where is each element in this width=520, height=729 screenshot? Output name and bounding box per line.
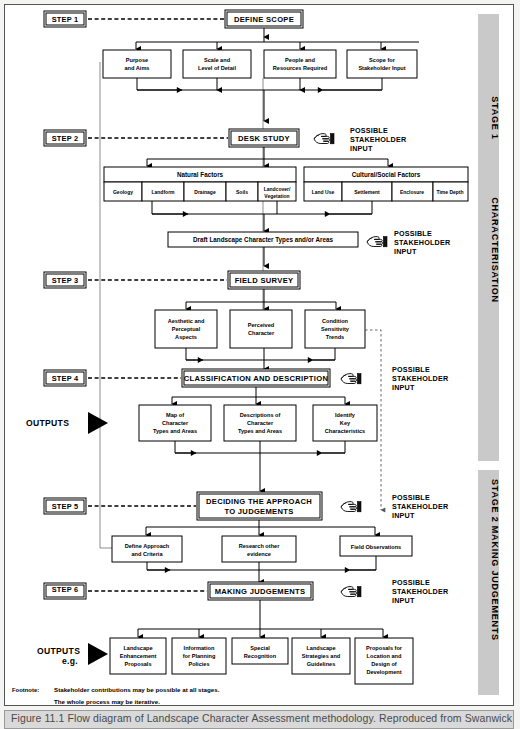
- step-6-label: STEP 6: [52, 585, 79, 594]
- output-box-special-l1: Special: [250, 645, 270, 651]
- step1-box-scale-l2: Level of Detail: [198, 65, 236, 71]
- stakeholder-1-line3: INPUT: [350, 144, 373, 153]
- outputs-marker-2: OUTPUTS e.g.: [37, 643, 108, 666]
- output-box-information-l1: Information: [184, 645, 215, 651]
- stakeholder-callout-2: POSSIBLE STAKEHOLDER INPUT: [367, 229, 451, 256]
- cultural-cell-timedepth-label: Time Depth: [436, 189, 463, 195]
- stage-band-group: STAGE 1 CHARACTERISATION STAGE 2 MAKING …: [478, 14, 500, 695]
- flow-diagram: STAGE 1 CHARACTERISATION STAGE 2 MAKING …: [0, 0, 520, 712]
- output-box-special[interactable]: [232, 638, 288, 664]
- step4-box-descriptions-l1: Descriptions of: [240, 412, 281, 418]
- step-2-group: STEP 2 DESK STUDY POSSIBLE STAKEHOLDER I…: [44, 126, 468, 266]
- natural-cell-landcover-label-l2: Vegetation: [264, 193, 289, 199]
- step1-box-purpose-l2: and Aims: [125, 65, 150, 71]
- stakeholder-1-line2: STAKEHOLDER: [350, 135, 407, 144]
- stakeholder-callout-3: POSSIBLE STAKEHOLDER INPUT: [341, 365, 449, 392]
- step1-box-scope[interactable]: [347, 50, 417, 78]
- natural-cell-geology-label: Geology: [113, 189, 133, 195]
- output-box-strategies-l2: Strategies and: [302, 653, 341, 659]
- stakeholder-callout-4: POSSIBLE STAKEHOLDER INPUT: [341, 493, 449, 520]
- stakeholder-5-line2: STAKEHOLDER: [392, 587, 449, 596]
- cultural-factors-header: Cultural/Social Factors: [352, 171, 421, 178]
- deciding-approach-title-l2: TO JUDGEMENTS: [224, 507, 293, 516]
- step5-box-research[interactable]: [222, 536, 296, 562]
- step4-box-identify-l1: Identify: [335, 412, 356, 418]
- step5-box-research-l2: evidence: [247, 551, 271, 557]
- step3-box-condition-l1: Condition: [322, 318, 349, 324]
- pointing-hand-icon: [367, 237, 387, 247]
- outputs-label-2: OUTPUTS: [37, 646, 80, 656]
- desk-study-title: DESK STUDY: [238, 134, 290, 143]
- stakeholder-3-line1: POSSIBLE: [392, 365, 430, 374]
- output-box-proposals-l3: Design of: [371, 661, 397, 667]
- step1-box-scale-l1: Scale and: [204, 57, 231, 63]
- step1-box-people[interactable]: [264, 50, 336, 78]
- outputs-marker-1: OUTPUTS: [26, 412, 108, 434]
- output-box-proposals-l1: Proposals for: [366, 645, 403, 651]
- step4-box-descriptions-l3: Types and Areas: [238, 428, 282, 434]
- step4-collect-left: [175, 441, 196, 453]
- step4-box-identify-l3: Characteristics: [325, 428, 365, 434]
- natural-cell-drainage-label: Drainage: [194, 189, 216, 195]
- outputs-label-1: OUTPUTS: [26, 418, 69, 428]
- figure-caption: Figure 11.1 Flow diagram of Landscape Ch…: [11, 712, 514, 724]
- step3-box-perceived[interactable]: [230, 310, 292, 348]
- cultural-cell-landuse-label: Land Use: [312, 189, 335, 195]
- deciding-approach-title-l1: DECIDING THE APPROACH: [206, 497, 312, 506]
- figure-page: STAGE 1 CHARACTERISATION STAGE 2 MAKING …: [0, 0, 520, 729]
- natural-cell-landform-label: Landform: [151, 189, 175, 195]
- output-box-information-l2: for Planning: [183, 653, 216, 659]
- step5-box-define[interactable]: [112, 536, 182, 562]
- step4-box-identify-l2: Key: [340, 420, 351, 426]
- footnote-line-1: Stakeholder contributions may be possibl…: [54, 686, 220, 693]
- footnote-line-2: The whole process may be iterative.: [54, 698, 160, 705]
- output-box-information-l3: Policies: [188, 661, 209, 667]
- stakeholder-2-line1: POSSIBLE: [394, 229, 432, 238]
- step3-collect-right: [313, 348, 335, 360]
- stakeholder-4-line1: POSSIBLE: [392, 493, 430, 502]
- pointing-hand-icon: [341, 502, 361, 512]
- stakeholder-2-line3: INPUT: [394, 247, 417, 256]
- making-judgements-title: MAKING JUDGEMENTS: [215, 587, 306, 596]
- step5-collect-right: [350, 556, 376, 570]
- natural-cell-landcover-label-l1: Landcover/: [264, 186, 291, 192]
- step-4-label: STEP 4: [52, 374, 79, 383]
- stakeholder-1-line1: POSSIBLE: [350, 126, 388, 135]
- stage-1-label-b: CHARACTERISATION: [490, 197, 500, 303]
- figure-caption-bar: Figure 11.1 Flow diagram of Landscape Ch…: [4, 710, 514, 729]
- output-box-special-l2: Recognition: [244, 653, 277, 659]
- step1-box-scope-l1: Scope for: [369, 57, 396, 63]
- stakeholder-4-line2: STAKEHOLDER: [392, 502, 449, 511]
- step3-box-aesthetic-l1: Aesthetic and: [168, 318, 205, 324]
- natural-cell-soils-label: Soils: [236, 189, 248, 195]
- step1-box-scope-l2: Stakeholder Input: [358, 65, 405, 71]
- step-2-label: STEP 2: [52, 134, 79, 143]
- stakeholder-2-line2: STAKEHOLDER: [394, 238, 451, 247]
- step4-box-map-l1: Map of: [166, 412, 184, 418]
- draft-landscape-label: Draft Landscape Character Types and/or A…: [193, 236, 333, 244]
- classification-title: CLASSIFICATION AND DESCRIPTION: [184, 374, 328, 383]
- step-1-label: STEP 1: [52, 15, 79, 24]
- step1-collect-left: [137, 78, 182, 90]
- stage-1-label-a: STAGE 1: [490, 96, 500, 139]
- stakeholder-callout-5: POSSIBLE STAKEHOLDER INPUT: [341, 578, 449, 605]
- output-box-strategies-l3: Guidelines: [307, 661, 336, 667]
- pointing-hand-icon: [341, 374, 361, 384]
- step5-box-define-l2: and Criteria: [131, 551, 163, 557]
- step5-box-field-obs-l1: Field Observations: [351, 544, 401, 550]
- field-survey-title: FIELD SURVEY: [235, 276, 294, 285]
- step1-box-scale[interactable]: [183, 50, 251, 78]
- factors-collect-left: [152, 201, 188, 214]
- stakeholder-5-line3: INPUT: [392, 596, 415, 605]
- step3-box-perceived-l2: Character: [248, 330, 275, 336]
- step5-collect-left: [147, 562, 170, 570]
- step1-box-purpose-l1: Purpose: [126, 57, 148, 63]
- step-4-group: STEP 4 CLASSIFICATION AND DESCRIPTION PO…: [26, 365, 449, 491]
- step1-box-purpose[interactable]: [103, 50, 171, 78]
- triangle-right-icon: [88, 643, 108, 665]
- define-scope-title: DEFINE SCOPE: [234, 15, 294, 24]
- output-box-enhancement-l2: Enhancement: [120, 653, 157, 659]
- stakeholder-callout-1: POSSIBLE STAKEHOLDER INPUT: [314, 126, 407, 153]
- step4-box-descriptions-l2: Character: [247, 420, 274, 426]
- triangle-right-icon: [88, 412, 108, 434]
